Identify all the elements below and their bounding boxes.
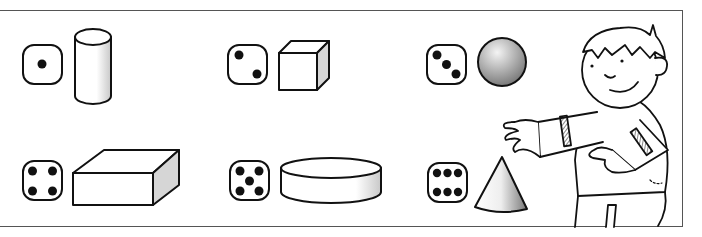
sphere-icon <box>478 38 526 86</box>
die-five-icon <box>230 161 269 200</box>
flat-cylinder-icon <box>281 158 381 203</box>
boy-character-illustration <box>504 25 668 227</box>
die-one-icon <box>23 45 62 84</box>
die-six-icon <box>428 163 467 202</box>
cube-icon <box>279 41 329 90</box>
cone-icon <box>475 157 527 212</box>
die-three-icon <box>427 45 466 84</box>
die-two-icon <box>228 45 267 84</box>
worksheet-illustration <box>0 0 702 237</box>
cylinder-icon <box>75 29 111 104</box>
rectangular-prism-icon <box>73 150 179 205</box>
die-four-icon <box>23 161 62 200</box>
